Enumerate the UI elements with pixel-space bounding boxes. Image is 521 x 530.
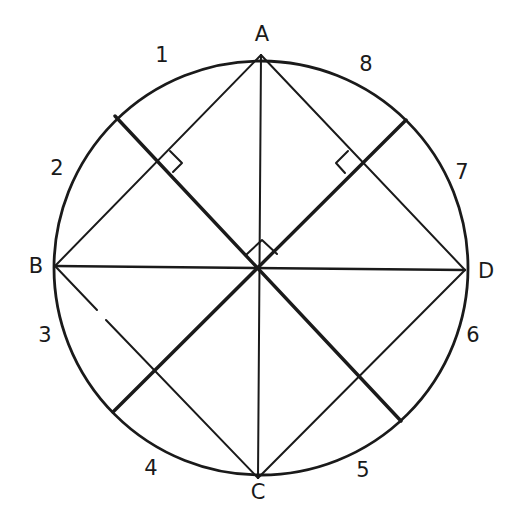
right-angle-marker-ab (170, 151, 182, 172)
arc-label-6: 6 (466, 325, 479, 346)
arc-label-8: 8 (359, 54, 372, 75)
arc-label-7: 7 (455, 162, 468, 183)
right-angle-marker-ad (336, 151, 348, 173)
arc-label-2: 2 (50, 158, 63, 179)
vertex-label-d: D (478, 261, 494, 282)
arc-label-5: 5 (356, 460, 369, 481)
segment-bc-part1 (55, 266, 97, 310)
arc-label-3: 3 (38, 325, 51, 346)
vertex-label-a: A (255, 24, 269, 45)
vertex-label-c: C (251, 482, 266, 503)
vertex-label-b: B (29, 256, 43, 277)
arc-label-4: 4 (144, 458, 157, 479)
arc-label-1: 1 (155, 45, 168, 66)
geometry-diagram: A B C D 1 2 3 4 5 6 7 8 (0, 0, 521, 530)
diagram-canvas (0, 0, 521, 530)
